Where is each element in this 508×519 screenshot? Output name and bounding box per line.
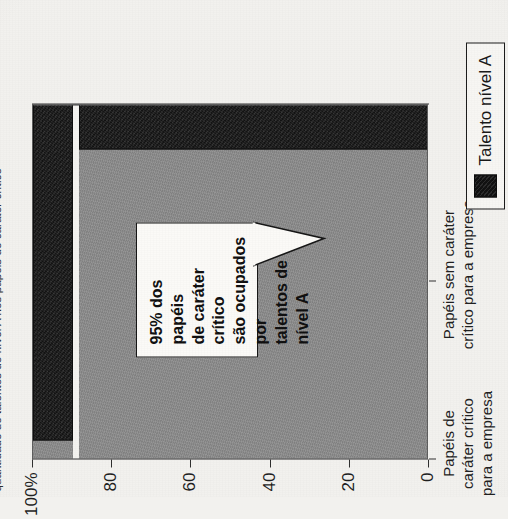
axis-tick bbox=[190, 459, 191, 467]
axis-tick bbox=[270, 459, 271, 467]
callout-tail-icon bbox=[136, 197, 336, 357]
category-label-2: Papéis sem caráter crítico para a empres… bbox=[440, 189, 478, 359]
axis-tick bbox=[111, 459, 112, 467]
axis-tick bbox=[428, 459, 429, 467]
category-tick bbox=[429, 458, 436, 459]
axis-tick-label-100: 100% bbox=[22, 472, 42, 515]
category-tick bbox=[429, 280, 436, 281]
bar-segment-talento-nivel-a[interactable] bbox=[79, 104, 428, 149]
axis-tick-label-40: 40 bbox=[260, 472, 280, 491]
legend-box[interactable]: Talento nível A bbox=[466, 42, 505, 209]
axis-tick-label-80: 80 bbox=[101, 472, 121, 491]
legend-label-talento-nivel-a: Talento nível A bbox=[476, 54, 496, 165]
axis-tick-label-60: 60 bbox=[180, 472, 200, 491]
category-axis-line bbox=[32, 103, 429, 104]
bar-category-1[interactable] bbox=[33, 104, 73, 458]
axis-tick-label-0: 0 bbox=[418, 472, 438, 481]
category-label-1: Papéis de caráter crítico para a empresa bbox=[440, 363, 497, 519]
axis-tick bbox=[349, 459, 350, 467]
bar-segment-talento-nivel-a[interactable] bbox=[33, 104, 73, 440]
cut-off-title: quantidade de talentos de nível A nos pa… bbox=[0, 21, 5, 491]
value-axis: 100% 80 60 40 20 0 bbox=[32, 459, 428, 467]
axis-tick bbox=[32, 459, 33, 467]
axis-tick-label-20: 20 bbox=[339, 472, 359, 491]
legend-swatch-talento-nivel-a bbox=[474, 174, 497, 197]
